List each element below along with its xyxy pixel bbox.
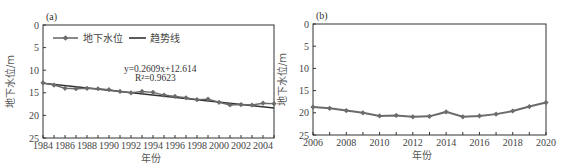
y-tick-label: 0	[34, 20, 39, 31]
data-point-marker	[183, 95, 188, 100]
x-tick-label: 2000	[209, 140, 229, 151]
x-tick-label: 1990	[99, 140, 119, 151]
y-axis-title: 地下水位/m	[276, 53, 288, 106]
legend-label-groundwater: 地下水位	[83, 32, 123, 44]
data-point-marker	[271, 101, 276, 106]
data-point-marker	[527, 104, 532, 109]
x-tick-label: 1986	[55, 140, 75, 151]
data-point-marker	[377, 113, 382, 118]
data-point-marker	[194, 97, 199, 102]
y-tick-label: 15	[299, 85, 309, 96]
r-squared-value: R²=0.9623	[135, 73, 176, 83]
data-point-marker	[477, 113, 482, 118]
y-tick-label: 10	[299, 63, 309, 74]
x-tick-label: 2020	[536, 137, 556, 148]
y-tick-label: 10	[29, 65, 39, 76]
x-tick-label: 2002	[231, 140, 251, 151]
data-point-marker	[51, 83, 56, 88]
panel-a: 0510152025198419861988199019921994199619…	[4, 11, 277, 164]
y-tick-label: 20	[299, 107, 309, 118]
data-point-marker	[249, 102, 254, 107]
x-tick-label: 1994	[143, 140, 163, 151]
data-point-marker	[238, 102, 243, 107]
data-point-marker	[410, 114, 415, 119]
groundwater-level-line	[43, 83, 274, 105]
y-tick-label: 5	[34, 42, 39, 53]
data-point-marker	[216, 100, 221, 105]
chart-figure: 0510152025198419861988199019921994199619…	[0, 0, 571, 168]
x-tick-label: 1996	[165, 140, 185, 151]
data-point-marker	[40, 80, 45, 85]
data-point-marker	[427, 114, 432, 119]
x-tick-label: 2008	[336, 137, 356, 148]
data-point-marker	[444, 109, 449, 114]
data-point-marker	[310, 104, 315, 109]
x-tick-label: 1984	[33, 140, 53, 151]
x-tick-label: 2014	[436, 137, 456, 148]
data-point-marker	[117, 89, 122, 94]
data-point-marker	[360, 110, 365, 115]
x-tick-label: 2004	[253, 140, 273, 151]
y-tick-label: 15	[29, 87, 39, 98]
data-point-marker	[493, 112, 498, 117]
data-point-marker	[543, 100, 548, 105]
x-tick-label: 2010	[370, 137, 390, 148]
legend: 地下水位趋势线	[53, 32, 180, 44]
x-tick-label: 1998	[187, 140, 207, 151]
x-tick-label: 2018	[503, 137, 523, 148]
legend-label-trend: 趋势线	[150, 32, 180, 44]
data-point-marker	[106, 87, 111, 92]
data-point-marker	[460, 114, 465, 119]
y-axis-title: 地下水位/m	[4, 55, 16, 108]
x-tick-label: 2016	[469, 137, 489, 148]
y-tick-label: 20	[29, 110, 39, 121]
x-tick-label: 2012	[403, 137, 423, 148]
y-tick-label: 0	[304, 19, 309, 30]
x-tick-label: 1988	[77, 140, 97, 151]
data-point-marker	[327, 106, 332, 111]
data-point-marker	[128, 90, 133, 95]
data-point-marker	[344, 108, 349, 113]
x-tick-label: 2006	[303, 137, 323, 148]
data-point-marker	[260, 101, 265, 106]
panel-label: (b)	[316, 10, 328, 22]
data-point-marker	[394, 113, 399, 118]
x-axis-title: 年份	[141, 152, 161, 164]
panel-label: (a)	[46, 11, 57, 23]
x-axis-title: 年份	[412, 149, 432, 161]
data-point-marker	[95, 86, 100, 91]
panel-b: 0510152025200620082010201220142016201820…	[276, 10, 556, 161]
data-point-marker	[510, 108, 515, 113]
y-tick-label: 5	[304, 41, 309, 52]
x-tick-label: 1992	[121, 140, 141, 151]
data-point-marker	[84, 86, 89, 91]
legend-marker-icon	[63, 35, 69, 41]
data-point-marker	[62, 86, 67, 91]
